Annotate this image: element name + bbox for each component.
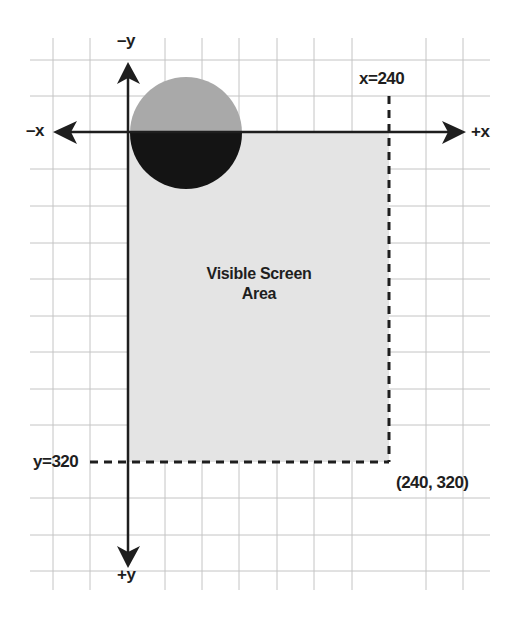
neg-y-axis-label: –y: [117, 31, 135, 51]
corner-coordinate-label: (240, 320): [396, 473, 469, 493]
pos-y-axis-label: +y: [117, 565, 135, 585]
visible-screen-area-label: Visible Screen Area: [194, 264, 324, 304]
pos-x-axis-label: +x: [471, 122, 489, 142]
coordinate-diagram: [0, 0, 516, 617]
visible-screen-label-line2: Area: [194, 284, 324, 304]
y-bound-label: y=320: [33, 452, 78, 472]
neg-x-axis-label: –x: [26, 121, 44, 141]
visible-screen-label-line1: Visible Screen: [194, 264, 324, 284]
x-bound-label: x=240: [359, 69, 404, 89]
